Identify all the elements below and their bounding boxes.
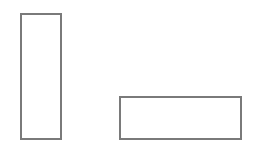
tall-rectangle xyxy=(20,13,62,140)
wide-rectangle xyxy=(119,96,242,140)
